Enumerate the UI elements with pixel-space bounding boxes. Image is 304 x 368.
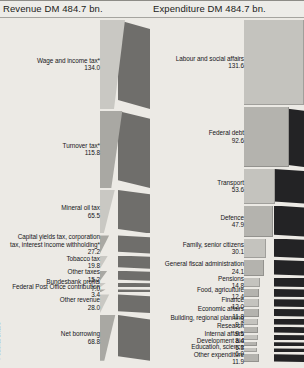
chart-segment [244,309,304,317]
chart-segment [244,342,304,346]
segment-label-name: Capital yields tax, corporation tax, int… [10,233,100,247]
segment-label-name: Other expenditure [194,351,244,358]
budget-infographic: Revenue DM 484.7 bn. Expenditure DM 484.… [0,0,304,368]
revenue-labels: Wage and income tax* 134.0Turnover tax* … [8,18,100,368]
segment-label-name: Pensions [218,275,244,282]
segment-face [100,256,150,269]
segment-label-value: 53.6 [232,186,244,193]
segment-label-name: Tobacco tax [66,255,100,262]
segment-label: Family, senior citizens 30.1 [152,241,244,256]
chart-segment [100,235,150,253]
revenue-wedge-stack [100,18,150,368]
segment-label-value: 68.8 [88,338,100,345]
segment-face [100,111,150,188]
chart-segment [244,299,304,307]
expenditure-labels: Labour and social affairs 131.6Federal d… [152,18,244,368]
segment-label: Labour and social affairs 131.6 [152,55,244,70]
segment-label: Capital yields tax, corporation tax, int… [8,233,100,255]
segment-label-name: Federal Post Office contribution [12,283,100,290]
segment-face [244,239,266,258]
segment-label-name: Family, senior citizens [183,241,244,248]
segment-face [244,319,258,325]
segment-label-value: 24.1 [232,268,244,275]
segment-face [100,235,150,253]
segment-label-value: 134.0 [84,64,100,71]
segment-label: Federal debt 92.6 [152,129,244,144]
segment-face [100,315,150,361]
chart-segment [244,260,304,276]
chart-segment [244,354,304,362]
chart-segment [244,327,304,333]
segment-face [244,354,259,362]
chart-segment [244,107,304,167]
segment-label-value: 28.0 [88,304,100,311]
segment-label: Mineral oil tax 65.5 [8,204,100,219]
segment-face [244,169,275,204]
segment-label-name: Net borrowing [61,330,100,337]
chart-segment [100,289,150,292]
segment-label-value: 30.1 [232,248,244,255]
chart-segment [100,315,150,361]
segment-label-value: 47.9 [232,221,244,228]
segment-label-name: Turnover tax* [63,142,100,149]
chart-segment [100,20,150,109]
segment-label-name: Transport [217,179,244,186]
segment-face [100,190,150,234]
chart-segment [100,294,150,313]
chart-segment [244,289,304,297]
chart-segment [244,20,304,105]
chart-segment [244,169,304,204]
expenditure-panel-title: Expenditure DM 484.7 bn. [153,2,266,15]
segment-face [100,283,150,288]
segment-face [244,206,273,237]
segment-face [100,20,150,109]
chart-segment [100,271,150,281]
chart-segment [244,335,304,340]
segment-label-value: 65.5 [88,212,100,219]
segment-label-name: Food, agriculture [197,286,244,293]
segment-face [244,260,264,276]
segment-face [100,289,150,292]
segment-face [244,327,258,333]
segment-label: Other expenditure 11.9 [152,351,244,366]
segment-label-value: 131.6 [228,62,244,69]
segment-face [244,309,259,317]
segment-face [100,294,150,313]
chart-segment [100,190,150,234]
chart-segment [244,348,304,352]
segment-label: Tobacco tax 19.8 [8,255,100,270]
segment-label-name: Defence [221,214,244,221]
segment-face [244,342,257,346]
chart-segment [100,111,150,188]
segment-label: Net borrowing 68.8 [8,330,100,345]
segment-label-value: 92.6 [232,137,244,144]
chart-segment [244,239,304,258]
segment-face [244,278,260,288]
segment-label-name: Federal debt [209,129,244,136]
expenditure-wedge-stack [244,18,304,368]
chart-segment [244,278,304,288]
segment-label-name: Finance [222,296,244,303]
segment-face [244,299,259,307]
segment-label: General fiscal administration 24.1 [152,260,244,275]
segment-label-name: Economic affairs [198,305,244,312]
segment-label-name: Mineral oil tax [61,204,100,211]
segment-label-name: Education, science [191,343,244,350]
chart-segment [244,319,304,325]
segment-face [244,20,304,105]
segment-label: Turnover tax* 115.8 [8,142,100,157]
chart-segment [100,256,150,269]
segment-face [244,289,259,297]
segment-label-name: Wage and income tax* [37,57,100,64]
segment-label-name: Research [217,322,244,329]
chart-segment [244,206,304,237]
segment-label: Other revenue 28.0 [8,296,100,311]
segment-face [244,107,289,167]
segment-label: Transport 53.6 [152,179,244,194]
segment-label-name: Building, regional planning [170,314,244,321]
segment-face [100,271,150,281]
segment-label-name: Other taxes [68,268,100,275]
segment-label-name: Labour and social affairs [176,55,244,62]
segment-label: Wage and income tax* 134.0 [8,57,100,72]
revenue-panel-title: Revenue DM 484.7 bn. [3,2,103,15]
